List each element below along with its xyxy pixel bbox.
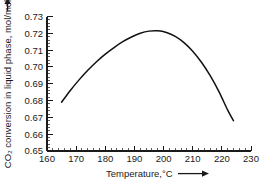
x-tick-label: 210 xyxy=(185,153,201,164)
x-tick-label: 200 xyxy=(156,153,172,164)
y-tick-label: 0.66 xyxy=(25,129,44,140)
co2-conversion-vs-temperature-chart: 0.650.660.670.680.690.700.710.720.73 160… xyxy=(0,0,266,189)
x-tick-label: 230 xyxy=(243,153,259,164)
y-axis-title: CO₂ conversion in liquid phase, mol/mol xyxy=(2,0,13,168)
y-axis-title-group: CO₂ conversion in liquid phase, mol/mol xyxy=(2,0,13,168)
chart-figure: 0.650.660.670.680.690.700.710.720.73 160… xyxy=(0,0,266,189)
y-axis-tick-labels: 0.650.660.670.680.690.700.710.720.73 xyxy=(25,11,44,157)
y-tick-label: 0.70 xyxy=(25,61,44,72)
x-tick-label: 220 xyxy=(214,153,230,164)
x-tick-label: 160 xyxy=(39,153,55,164)
y-tick-label: 0.71 xyxy=(25,45,44,56)
x-axis-title: Temperature,°C xyxy=(106,168,173,179)
y-tick-label: 0.73 xyxy=(25,11,44,22)
y-tick-label: 0.72 xyxy=(25,28,44,39)
x-tick-label: 190 xyxy=(126,153,142,164)
x-tick-label: 180 xyxy=(97,153,113,164)
y-tick-label: 0.69 xyxy=(25,78,44,89)
y-tick-label: 0.68 xyxy=(25,95,44,106)
x-tick-label: 170 xyxy=(68,153,84,164)
y-tick-label: 0.67 xyxy=(25,112,44,123)
